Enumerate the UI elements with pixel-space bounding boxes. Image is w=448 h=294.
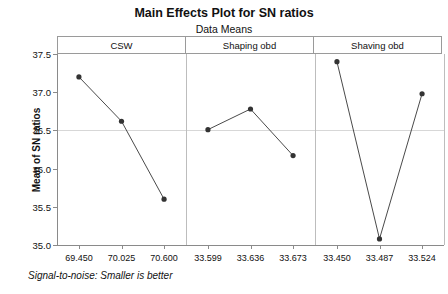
panel-header-label: Shaving obd xyxy=(351,40,404,51)
chart-title: Main Effects Plot for SN ratios xyxy=(0,6,448,20)
y-axis-line xyxy=(57,54,58,245)
x-axis-tick-mark xyxy=(337,245,338,249)
panel-header-label: Shaping obd xyxy=(223,40,276,51)
panel-header-label: CSW xyxy=(110,40,132,51)
x-axis-tick-mark xyxy=(122,245,123,249)
y-axis-tick-label: 36.0 xyxy=(17,163,51,174)
footnote: Signal-to-noise: Smaller is better xyxy=(28,270,173,281)
x-axis-tick-label: 69.450 xyxy=(65,253,93,263)
data-point xyxy=(419,91,424,96)
series-line-panel-3 xyxy=(337,62,422,239)
data-point xyxy=(290,153,295,158)
y-axis-tick-label: 36.5 xyxy=(17,125,51,136)
y-axis-tick-label: 37.0 xyxy=(17,87,51,98)
x-axis-tick-mark xyxy=(79,245,80,249)
panel-header-1: CSW xyxy=(57,36,186,54)
x-axis-tick-mark xyxy=(380,245,381,249)
panel-separator xyxy=(186,54,187,245)
x-axis-tick-mark xyxy=(422,245,423,249)
data-point xyxy=(161,197,166,202)
data-point xyxy=(119,119,124,124)
x-axis-tick-label: 33.673 xyxy=(279,253,307,263)
x-axis-tick-label: 33.599 xyxy=(194,253,222,263)
series-line-panel-2 xyxy=(208,109,293,156)
panel-header-strip: CSWShaping obdShaving obd xyxy=(57,36,444,54)
x-axis-tick-mark xyxy=(208,245,209,249)
chart-subtitle: Data Means xyxy=(0,23,448,35)
x-axis-tick-label: 33.524 xyxy=(408,253,436,263)
plot-right-edge xyxy=(444,54,445,245)
gridline xyxy=(57,130,444,131)
x-axis-tick-label: 33.450 xyxy=(323,253,351,263)
y-axis-tick-label: 35.0 xyxy=(17,240,51,251)
data-point xyxy=(377,236,382,241)
y-axis-tick-label: 37.5 xyxy=(17,49,51,60)
x-axis-tick-mark xyxy=(251,245,252,249)
series-line-panel-1 xyxy=(79,77,164,199)
panel-separator xyxy=(315,54,316,245)
y-axis-tick-label: 35.5 xyxy=(17,201,51,212)
x-axis-tick-mark xyxy=(293,245,294,249)
panel-header-3: Shaving obd xyxy=(313,36,442,54)
x-axis-tick-label: 70.025 xyxy=(108,253,136,263)
data-point xyxy=(248,106,253,111)
panel-header-2: Shaping obd xyxy=(185,36,314,54)
x-axis-tick-mark xyxy=(164,245,165,249)
y-axis-label-wrapper: Mean of SN ratios xyxy=(0,54,20,245)
data-point xyxy=(76,74,81,79)
data-point xyxy=(334,59,339,64)
main-effects-chart: Main Effects Plot for SN ratios Data Mea… xyxy=(0,0,448,294)
x-axis-tick-label: 33.636 xyxy=(237,253,265,263)
x-axis-tick-label: 70.600 xyxy=(150,253,178,263)
x-axis-tick-label: 33.487 xyxy=(366,253,394,263)
